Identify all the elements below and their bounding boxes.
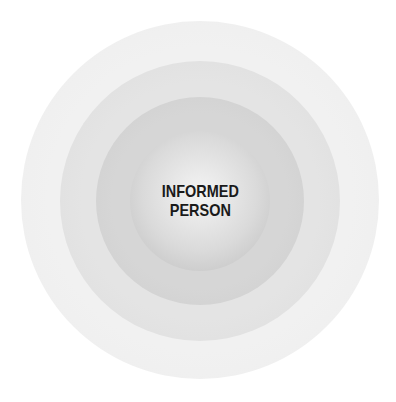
center-circle: INFORMED PERSON <box>130 131 270 271</box>
center-label-line1: INFORMED <box>161 182 238 201</box>
center-label-line2: PERSON <box>161 201 238 220</box>
center-label: INFORMED PERSON <box>161 182 238 220</box>
